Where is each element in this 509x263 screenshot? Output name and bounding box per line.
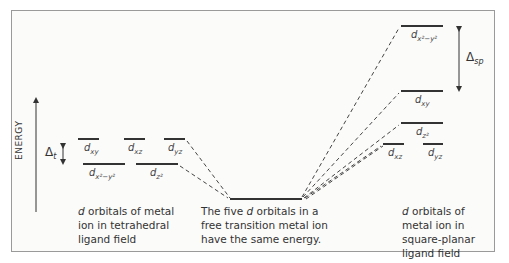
- tetrahedral-connectors: [180, 141, 230, 198]
- orbital-label-t-dyz: dyz: [168, 142, 182, 156]
- free-ion-caption: The five d orbitals in a free transition…: [201, 204, 331, 246]
- orbital-label-t-dz2: dz²: [150, 167, 163, 181]
- square-planar-levels: [383, 26, 443, 144]
- orbital-label-sp-dxy: dxy: [415, 94, 430, 108]
- tetrahedral-caption: d orbitals of metal ion in tetrahedral l…: [78, 204, 188, 246]
- orbital-label-sp-dxz: dxz: [388, 147, 402, 161]
- orbital-label-sp-dyz: dyz: [428, 147, 442, 161]
- orbital-label-t-dxz: dxz: [128, 142, 142, 156]
- delta-sp-label: Δsp: [466, 50, 483, 66]
- delta-t-label: Δt: [45, 145, 56, 161]
- orbital-label-sp-dz2: dz²: [416, 126, 429, 140]
- orbital-label-t-dx2y2: dx²−y²: [89, 167, 115, 181]
- square-planar-connectors: [302, 28, 399, 199]
- energy-axis-label: ENERGY: [14, 121, 24, 160]
- square-planar-caption: d orbitals of metal ion in square-planar…: [402, 204, 494, 260]
- orbital-label-sp-dx2y2: dx²−y²: [411, 29, 437, 43]
- orbital-label-t-dxy: dxy: [84, 142, 99, 156]
